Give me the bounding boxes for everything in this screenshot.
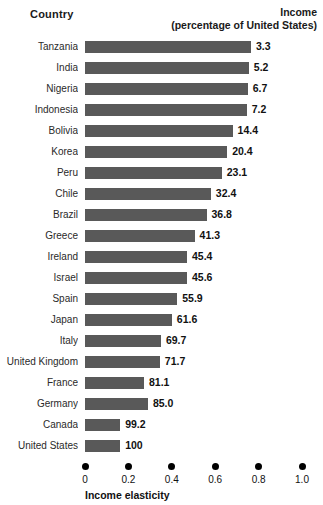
- axis-tick-label: 0: [82, 474, 88, 485]
- bar-row: Bolivia14.4: [0, 122, 323, 143]
- country-label: France: [0, 377, 78, 388]
- axis-tick-dot: [125, 463, 132, 470]
- bar: [85, 251, 187, 263]
- country-label: Tanzania: [0, 41, 78, 52]
- country-label: Canada: [0, 419, 78, 430]
- bar: [85, 230, 195, 242]
- country-label: Peru: [0, 167, 78, 178]
- bar-row: Nigeria6.7: [0, 80, 323, 101]
- country-label: Chile: [0, 188, 78, 199]
- bar-row: Israel45.6: [0, 269, 323, 290]
- axis-tick-dot: [168, 463, 175, 470]
- bar-row: Japan61.6: [0, 311, 323, 332]
- column-header-country: Country: [30, 8, 74, 20]
- axis-tick-dot: [255, 463, 262, 470]
- bar: [85, 188, 211, 200]
- bar-value-label: 23.1: [227, 166, 247, 178]
- bar-value-label: 61.6: [177, 313, 197, 325]
- bar: [85, 398, 148, 410]
- axis-tick-label: 0.4: [165, 474, 179, 485]
- bar: [85, 314, 172, 326]
- bar-row: Greece41.3: [0, 227, 323, 248]
- country-label: Japan: [0, 314, 78, 325]
- bar-row: Tanzania3.3: [0, 38, 323, 59]
- country-label: Brazil: [0, 209, 78, 220]
- bar-row: France81.1: [0, 374, 323, 395]
- country-label: Indonesia: [0, 104, 78, 115]
- bar: [85, 125, 233, 137]
- axis-tick-label: 0.6: [208, 474, 222, 485]
- country-label: United States: [0, 440, 78, 451]
- column-header-income-line1: Income: [171, 6, 317, 19]
- column-header-income: Income (percentage of United States): [171, 6, 317, 32]
- bar-value-label: 100: [125, 439, 143, 451]
- country-label: Nigeria: [0, 83, 78, 94]
- bar-value-label: 7.2: [252, 103, 267, 115]
- bar-value-label: 5.2: [254, 61, 269, 73]
- bar-row: United Kingdom71.7: [0, 353, 323, 374]
- bar: [85, 440, 120, 452]
- bar: [85, 167, 222, 179]
- bar-value-label: 81.1: [149, 376, 169, 388]
- bar-row: Canada99.2: [0, 416, 323, 437]
- bar-value-label: 14.4: [238, 124, 258, 136]
- bar: [85, 83, 248, 95]
- axis-tick-dot: [212, 463, 219, 470]
- axis-tick-label: 0.8: [252, 474, 266, 485]
- bar-value-label: 32.4: [216, 187, 236, 199]
- x-axis: 00.20.40.60.81.0Income elasticity: [0, 460, 323, 505]
- bar-row: Spain55.9: [0, 290, 323, 311]
- bar: [85, 41, 251, 53]
- bar-row: Brazil36.8: [0, 206, 323, 227]
- bar: [85, 62, 249, 74]
- country-label: United Kingdom: [0, 356, 78, 367]
- bar: [85, 104, 247, 116]
- bar-row: Indonesia7.2: [0, 101, 323, 122]
- bar-row: Ireland45.4: [0, 248, 323, 269]
- country-label: Bolivia: [0, 125, 78, 136]
- bar-value-label: 3.3: [256, 40, 271, 52]
- bar: [85, 209, 207, 221]
- bar: [85, 146, 227, 158]
- bar-value-label: 20.4: [232, 145, 252, 157]
- bar-row: United States100: [0, 437, 323, 458]
- bar-row: India5.2: [0, 59, 323, 80]
- bar-value-label: 6.7: [253, 82, 268, 94]
- country-label: Ireland: [0, 251, 78, 262]
- bar: [85, 419, 120, 431]
- bar-value-label: 45.6: [192, 271, 212, 283]
- bar: [85, 335, 161, 347]
- axis-title: Income elasticity: [85, 489, 170, 501]
- country-label: Italy: [0, 335, 78, 346]
- bar-value-label: 41.3: [200, 229, 220, 241]
- country-label: Israel: [0, 272, 78, 283]
- bar: [85, 272, 187, 284]
- bar-row: Germany85.0: [0, 395, 323, 416]
- axis-tick-dot: [299, 463, 306, 470]
- column-header-income-line2: (percentage of United States): [171, 19, 317, 32]
- bar-row: Korea20.4: [0, 143, 323, 164]
- bar-row: Peru23.1: [0, 164, 323, 185]
- country-label: Spain: [0, 293, 78, 304]
- country-label: Germany: [0, 398, 78, 409]
- axis-tick-label: 0.2: [121, 474, 135, 485]
- bar-row: Chile32.4: [0, 185, 323, 206]
- country-label: India: [0, 62, 78, 73]
- country-label: Korea: [0, 146, 78, 157]
- bar-value-label: 71.7: [165, 355, 185, 367]
- bar-value-label: 55.9: [182, 292, 202, 304]
- country-label: Greece: [0, 230, 78, 241]
- axis-tick-label: 1.0: [295, 474, 309, 485]
- bar-rows: Tanzania3.3India5.2Nigeria6.7Indonesia7.…: [0, 38, 323, 458]
- bar-row: Italy69.7: [0, 332, 323, 353]
- bar: [85, 293, 177, 305]
- bar-value-label: 69.7: [166, 334, 186, 346]
- bar-value-label: 85.0: [153, 397, 173, 409]
- bar-value-label: 36.8: [212, 208, 232, 220]
- axis-tick-dot: [82, 463, 89, 470]
- bar-value-label: 99.2: [125, 418, 145, 430]
- bar: [85, 356, 160, 368]
- bar: [85, 377, 144, 389]
- bar-value-label: 45.4: [192, 250, 212, 262]
